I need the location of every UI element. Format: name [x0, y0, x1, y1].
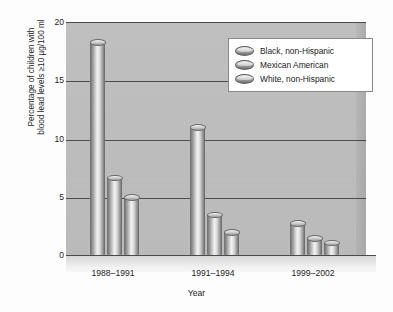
bar-cap [307, 235, 323, 242]
bar-1991-1994-black [190, 128, 205, 256]
bar-cap [190, 124, 206, 131]
bar-1999-2002-mexican [307, 239, 322, 257]
chart-figure: Percentage of children with blood lead l… [0, 0, 393, 312]
bar-cap [290, 220, 306, 227]
x-axis-title: Year [0, 288, 393, 298]
y-axis-ticks: 20 15 10 5 0 [34, 0, 64, 312]
chart-legend: Black, non-Hispanic Mexican American Whi… [228, 38, 373, 92]
bar-1988-1991-black [90, 43, 105, 256]
legend-label: Mexican American [260, 60, 328, 70]
bar-cap [224, 229, 240, 236]
legend-label: Black, non-Hispanic [260, 46, 334, 56]
y-tick-label-10: 10 [36, 134, 64, 144]
gridline-10 [66, 140, 366, 141]
y-tick-label-5: 5 [36, 192, 64, 202]
cylinder-swatch-icon [235, 46, 254, 56]
y-tick-label-0: 0 [36, 250, 64, 260]
legend-label: White, non-Hispanic [260, 74, 335, 84]
bar-1999-2002-black [290, 223, 305, 256]
cylinder-swatch-icon [235, 60, 254, 70]
legend-item-black-non-hispanic: Black, non-Hispanic [235, 44, 366, 58]
legend-item-mexican-american: Mexican American [235, 58, 366, 72]
x-tick-label-1999-2002: 1999–2002 [268, 268, 358, 278]
bar-1988-1991-mexican [107, 178, 122, 256]
bar-1991-1994-white [224, 233, 239, 256]
x-tick-label-1991-1994: 1991–1994 [168, 268, 258, 278]
y-tick-label-20: 20 [36, 17, 64, 27]
bar-cap [90, 39, 106, 46]
bar-1988-1991-white [124, 198, 139, 256]
bar-1991-1994-mexican [207, 215, 222, 256]
cylinder-swatch-icon [235, 74, 254, 84]
bar-cap [324, 240, 340, 247]
bar-cap [124, 194, 140, 201]
bar-cap [107, 175, 123, 182]
bar-cap [207, 212, 223, 219]
legend-item-white-non-hispanic: White, non-Hispanic [235, 72, 366, 86]
y-tick-label-15: 15 [36, 75, 64, 85]
x-tick-label-1988-1991: 1988–1991 [68, 268, 158, 278]
